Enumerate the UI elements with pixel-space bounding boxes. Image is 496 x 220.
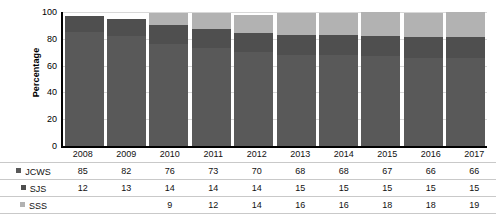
data-table: 2008200920102011201220132014201520162017… — [0, 146, 496, 214]
bar-2009[interactable] — [107, 12, 146, 146]
table-cell-sss-2015: 18 — [366, 197, 410, 214]
legend-label-sss: SSS — [29, 200, 47, 210]
table-cell-jcws-2013: 68 — [279, 163, 323, 180]
chart-figure: Percentage 020406080100 2008200920102011… — [0, 0, 496, 220]
bar-2010[interactable] — [149, 12, 188, 146]
table-year-header-2017: 2017 — [453, 146, 496, 163]
bar-segment-sjs-2015 — [361, 36, 400, 56]
legend-label-sjs: SJS — [30, 183, 47, 193]
table-cell-jcws-2008: 85 — [61, 163, 105, 180]
table-cell-sjs-2008: 12 — [61, 180, 105, 197]
bar-segment-jcws-2008 — [65, 32, 104, 146]
table-header: 2008200920102011201220132014201520162017 — [0, 146, 496, 163]
bar-2012[interactable] — [234, 12, 273, 146]
bar-2016[interactable] — [404, 12, 443, 146]
y-axis-tick-20: 20 — [30, 115, 57, 124]
bar-segment-sjs-2011 — [192, 29, 231, 48]
y-axis-tick-labels: 020406080100 — [30, 12, 57, 146]
table-cell-jcws-2016: 66 — [409, 163, 453, 180]
table-year-header-2008: 2008 — [61, 146, 105, 163]
table-header-row: 2008200920102011201220132014201520162017 — [0, 146, 496, 163]
table-cell-sjs-2012: 14 — [235, 180, 279, 197]
bar-2013[interactable] — [277, 12, 316, 146]
table-cell-jcws-2012: 70 — [235, 163, 279, 180]
bar-segment-sjs-2014 — [319, 35, 358, 55]
table-cell-jcws-2014: 68 — [322, 163, 366, 180]
table-year-header-2016: 2016 — [409, 146, 453, 163]
legend-swatch-sjs-icon — [21, 185, 26, 190]
bar-segment-sjs-2010 — [149, 25, 188, 44]
legend-item-jcws[interactable]: JCWS — [0, 163, 61, 180]
legend-item-sjs[interactable]: SJS — [0, 180, 61, 197]
table-year-header-2013: 2013 — [279, 146, 323, 163]
chart-plot-region: Percentage 020406080100 — [0, 0, 496, 160]
bar-segment-sjs-2009 — [107, 19, 146, 36]
table-corner-cell — [0, 146, 61, 163]
bar-2014[interactable] — [319, 12, 358, 146]
bar-2008[interactable] — [65, 12, 104, 146]
bar-segment-sjs-2016 — [404, 37, 443, 57]
bar-segment-sss-2011 — [192, 13, 231, 29]
bar-segment-jcws-2017 — [446, 58, 485, 146]
y-axis-tick-80: 80 — [30, 34, 57, 43]
table-year-header-2014: 2014 — [322, 146, 366, 163]
plot-area — [61, 12, 487, 148]
bar-segment-sss-2016 — [404, 13, 443, 37]
bar-segment-sjs-2008 — [65, 16, 104, 32]
bar-segment-sss-2015 — [361, 12, 400, 36]
table-cell-sss-2010: 9 — [148, 197, 192, 214]
bar-2011[interactable] — [192, 12, 231, 146]
bar-segment-jcws-2010 — [149, 44, 188, 146]
table-year-header-2011: 2011 — [192, 146, 236, 163]
table-cell-sss-2011: 12 — [192, 197, 236, 214]
table-cell-sjs-2015: 15 — [366, 180, 410, 197]
bar-segment-sjs-2012 — [234, 33, 273, 52]
table-cell-sjs-2011: 14 — [192, 180, 236, 197]
table-cell-sjs-2009: 13 — [105, 180, 149, 197]
legend-label-jcws: JCWS — [25, 166, 51, 176]
bar-segment-sss-2010 — [149, 13, 188, 25]
table-cell-sjs-2010: 14 — [148, 180, 192, 197]
table-year-header-2009: 2009 — [105, 146, 149, 163]
table-year-header-2015: 2015 — [366, 146, 410, 163]
table-cell-sss-2009 — [105, 197, 149, 214]
bar-segment-sjs-2013 — [277, 35, 316, 55]
table-cell-sss-2012: 14 — [235, 197, 279, 214]
table-year-header-2010: 2010 — [148, 146, 192, 163]
table-cell-jcws-2011: 73 — [192, 163, 236, 180]
legend-item-sss[interactable]: SSS — [0, 197, 61, 214]
legend-swatch-jcws-icon — [16, 168, 21, 173]
bar-segment-sss-2017 — [446, 12, 485, 37]
bar-segment-sss-2013 — [277, 13, 316, 34]
table-year-header-2012: 2012 — [235, 146, 279, 163]
bar-segment-jcws-2011 — [192, 48, 231, 146]
table-cell-sjs-2017: 15 — [453, 180, 496, 197]
table-cell-sss-2016: 18 — [409, 197, 453, 214]
table-cell-jcws-2017: 66 — [453, 163, 496, 180]
table-cell-sjs-2013: 15 — [279, 180, 323, 197]
table-cell-jcws-2015: 67 — [366, 163, 410, 180]
bar-segment-sjs-2017 — [446, 37, 485, 57]
bar-segment-sss-2012 — [234, 15, 273, 34]
bar-segment-jcws-2015 — [361, 56, 400, 146]
table-cell-jcws-2010: 76 — [148, 163, 192, 180]
bar-2015[interactable] — [361, 12, 400, 146]
table-row: SJS12131414141515151515 — [0, 180, 496, 197]
table-cell-jcws-2009: 82 — [105, 163, 149, 180]
bar-segment-sss-2014 — [319, 13, 358, 34]
y-axis-tick-60: 60 — [30, 61, 57, 70]
table-row: SSS 912141616181819 — [0, 197, 496, 214]
table-body: JCWS85827673706868676666SJS1213141414151… — [0, 163, 496, 214]
table-cell-sss-2013: 16 — [279, 197, 323, 214]
table-cell-sss-2008 — [61, 197, 105, 214]
bar-segment-jcws-2013 — [277, 55, 316, 146]
table-cell-sss-2017: 19 — [453, 197, 496, 214]
bar-2017[interactable] — [446, 12, 485, 146]
bar-group — [63, 12, 487, 146]
table-cell-sjs-2016: 15 — [409, 180, 453, 197]
legend-swatch-sss-icon — [20, 202, 25, 207]
y-axis-tick-40: 40 — [30, 88, 57, 97]
bar-segment-jcws-2012 — [234, 52, 273, 146]
table-cell-sss-2014: 16 — [322, 197, 366, 214]
bar-segment-jcws-2009 — [107, 36, 146, 146]
